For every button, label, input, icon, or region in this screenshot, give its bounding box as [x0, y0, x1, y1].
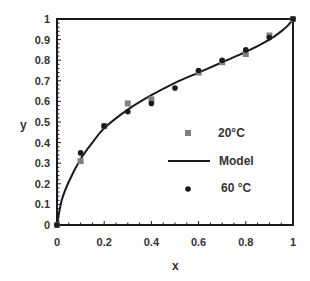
y-tick-label: 0.9 [35, 34, 50, 46]
data-point-60c [54, 222, 60, 228]
chart: 00.10.20.30.40.50.60.70.80.91 00.20.40.6… [0, 0, 310, 281]
x-axis-label: x [172, 259, 179, 273]
data-point-20c [78, 158, 84, 164]
model-curve [57, 19, 293, 225]
data-point-60c [196, 68, 202, 74]
legend-square-marker [185, 130, 191, 136]
legend-circle-marker [185, 186, 191, 192]
y-axis-tick-labels: 00.10.20.30.40.50.60.70.80.91 [35, 13, 51, 231]
legend: 20°C Model 60 °C [168, 126, 254, 195]
data-point-60c [78, 150, 84, 156]
y-tick-label: 0.7 [35, 75, 50, 87]
y-tick-label: 0.3 [35, 157, 50, 169]
x-tick-label: 1 [290, 236, 296, 248]
y-tick-label: 0 [44, 219, 50, 231]
x-tick-label: 0.6 [191, 236, 206, 248]
legend-label-20c: 20°C [218, 126, 245, 140]
y-tick-label: 0.8 [35, 54, 50, 66]
data-point-60c [149, 101, 155, 107]
y-axis-label: y [20, 118, 27, 132]
x-tick-label: 0.2 [97, 236, 112, 248]
data-point-60c [125, 109, 131, 115]
legend-label-60c: 60 °C [221, 181, 251, 195]
data-point-20c [125, 100, 131, 106]
data-point-60c [101, 123, 107, 129]
legend-label-model: Model [219, 154, 254, 168]
x-tick-label: 0.8 [238, 236, 253, 248]
data-point-60c [290, 16, 296, 22]
data-point-60c [172, 85, 178, 91]
x-tick-label: 0.4 [144, 236, 160, 248]
y-tick-label: 0.5 [35, 116, 50, 128]
plot-area-frame [57, 19, 293, 225]
data-point-60c [219, 57, 225, 63]
y-tick-label: 0.2 [35, 178, 50, 190]
series-20c-markers [54, 16, 296, 228]
x-axis-tick-labels: 00.20.40.60.81 [54, 236, 296, 248]
x-tick-label: 0 [54, 236, 60, 248]
y-tick-label: 0.4 [35, 137, 51, 149]
y-tick-label: 0.1 [35, 198, 50, 210]
data-point-60c [267, 35, 273, 41]
series-60c-markers [54, 16, 296, 228]
y-tick-label: 1 [44, 13, 50, 25]
data-point-60c [243, 47, 249, 53]
y-tick-label: 0.6 [35, 95, 50, 107]
